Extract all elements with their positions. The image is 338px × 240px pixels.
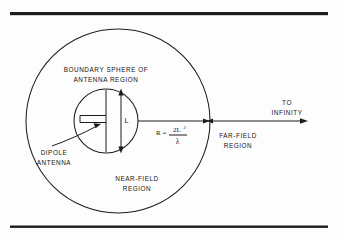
formula-equals: = [163, 129, 167, 137]
formula-numerator: 2L [173, 126, 181, 134]
near-field-label-line1: NEAR-FIELD [115, 175, 159, 182]
dipole-antenna-label-line2: ANTENNA [37, 159, 72, 166]
far-field-distance-formula: R = 2L 2 λ [156, 125, 187, 146]
boundary-sphere-label-line2: ANTENNA REGION [74, 76, 139, 83]
bottom-horizontal-rule [10, 226, 328, 228]
to-infinity-arrowhead [300, 118, 308, 124]
dipole-antenna-label-line1: DIPOLE [41, 149, 68, 156]
figure-root: L BOUNDARY SPHERE OF ANTENNA REGION DIPO… [0, 0, 338, 240]
near-field-label-line2: REGION [123, 185, 152, 192]
to-infinity-label-line1: TO [282, 99, 292, 106]
formula-lhs: R [156, 129, 161, 137]
far-field-label-line1: FAR-FIELD [219, 132, 257, 139]
formula-numerator-exponent: 2 [184, 125, 187, 130]
far-field-label-line2: REGION [224, 142, 253, 149]
boundary-sphere-label-line1: BOUNDARY SPHERE OF [64, 66, 149, 73]
length-symbol-label: L [125, 116, 129, 125]
formula-denominator: λ [176, 137, 180, 146]
antenna-field-regions-diagram: L BOUNDARY SPHERE OF ANTENNA REGION DIPO… [0, 0, 338, 240]
to-infinity-label-line2: INFINITY [271, 109, 302, 116]
top-horizontal-rule [10, 12, 328, 15]
